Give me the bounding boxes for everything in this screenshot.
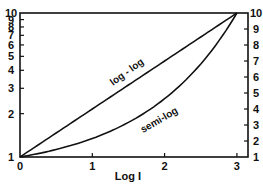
left-tick-label: 5 bbox=[8, 50, 14, 62]
left-tick-label: 4 bbox=[8, 64, 15, 76]
chart: 12345678910 12345678910 0123 log - log s… bbox=[0, 0, 263, 188]
right-tick-label: 3 bbox=[253, 119, 259, 131]
right-tick-label: 5 bbox=[253, 87, 259, 99]
plot-frame bbox=[20, 13, 248, 157]
semilog-label: semi-log bbox=[139, 105, 180, 135]
x-axis-title: Log I bbox=[115, 170, 141, 182]
x-tick-label: 2 bbox=[162, 160, 168, 172]
right-tick-label: 9 bbox=[253, 23, 259, 35]
right-tick-label: 2 bbox=[253, 135, 259, 147]
right-tick-label: 6 bbox=[253, 71, 259, 83]
x-tick-label: 1 bbox=[89, 160, 95, 172]
left-tick-label: 1 bbox=[8, 151, 14, 163]
right-tick-label: 10 bbox=[250, 7, 262, 19]
right-tick-label: 8 bbox=[253, 39, 259, 51]
loglog-curve bbox=[20, 13, 237, 157]
left-tick-label: 10 bbox=[5, 7, 17, 19]
right-tick-label: 1 bbox=[253, 151, 259, 163]
loglog-label: log - log bbox=[108, 56, 146, 88]
right-tick-label: 4 bbox=[253, 103, 260, 115]
left-tick-label: 3 bbox=[8, 82, 14, 94]
left-axis-ticks: 12345678910 bbox=[5, 7, 24, 163]
x-tick-label: 0 bbox=[17, 160, 23, 172]
left-tick-label: 2 bbox=[8, 108, 14, 120]
x-tick-label: 3 bbox=[234, 160, 240, 172]
right-tick-label: 7 bbox=[253, 55, 259, 67]
right-axis-ticks: 12345678910 bbox=[244, 7, 262, 163]
